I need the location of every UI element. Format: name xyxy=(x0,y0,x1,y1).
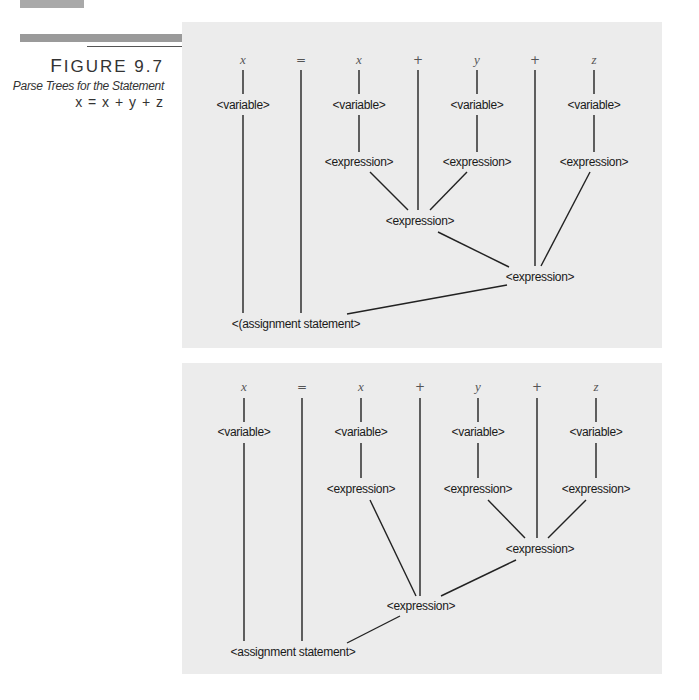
token-equals: = xyxy=(297,380,307,394)
token-x: x xyxy=(240,52,246,68)
expression-node: <expression> xyxy=(327,482,395,496)
expression-node: <expression> xyxy=(443,155,511,169)
token-y: y xyxy=(474,52,480,68)
token-plus: + xyxy=(530,53,540,67)
assignment-statement-node-1: <(assignment statement> xyxy=(232,317,361,331)
expression-node: <expression> xyxy=(325,155,393,169)
variable-node: <variable> xyxy=(567,98,620,112)
expression-node: <expression> xyxy=(444,482,512,496)
expression-node-root-1: <expression> xyxy=(506,270,574,284)
token-z: z xyxy=(591,52,596,68)
token-plus: + xyxy=(532,380,542,394)
variable-node: <variable> xyxy=(334,425,387,439)
variable-node: <variable> xyxy=(569,425,622,439)
token-plus: + xyxy=(415,380,425,394)
token-x: x xyxy=(241,379,247,395)
variable-node: <variable> xyxy=(450,98,503,112)
token-y: y xyxy=(475,379,481,395)
variable-node: <variable> xyxy=(451,425,504,439)
expression-node: <expression> xyxy=(560,155,628,169)
assignment-statement-node-2: <assignment statement> xyxy=(231,645,356,659)
token-equals: = xyxy=(296,53,306,67)
expression-node-root-2: <expression> xyxy=(387,599,455,613)
expression-node-y-plus-z: <expression> xyxy=(506,542,574,556)
expression-node: <expression> xyxy=(562,482,630,496)
variable-node: <variable> xyxy=(217,425,270,439)
expression-node-x-plus-y: <expression> xyxy=(386,214,454,228)
token-z: z xyxy=(593,379,598,395)
variable-node: <variable> xyxy=(332,98,385,112)
token-plus: + xyxy=(413,53,423,67)
token-x: x xyxy=(356,52,362,68)
token-x: x xyxy=(358,379,364,395)
variable-node: <variable> xyxy=(216,98,269,112)
